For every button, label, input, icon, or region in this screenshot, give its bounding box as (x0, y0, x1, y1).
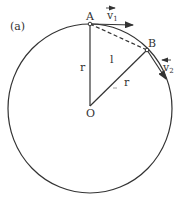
point-B-label: B (148, 37, 156, 50)
radius-OA-label: r (80, 61, 86, 74)
arc-length-label: l (110, 53, 114, 66)
radius-OB-label: r (124, 76, 130, 89)
chord-AB (90, 24, 147, 50)
point-O-label: O (86, 107, 95, 120)
v1-label: v1 (106, 9, 118, 23)
panel-label: (a) (10, 20, 25, 33)
radius-OB (90, 50, 147, 106)
point-A-label: A (85, 10, 95, 23)
circular-motion-diagram: (a) A B O r r l v1 v2 (0, 0, 184, 200)
v2-label: v2 (162, 61, 174, 75)
